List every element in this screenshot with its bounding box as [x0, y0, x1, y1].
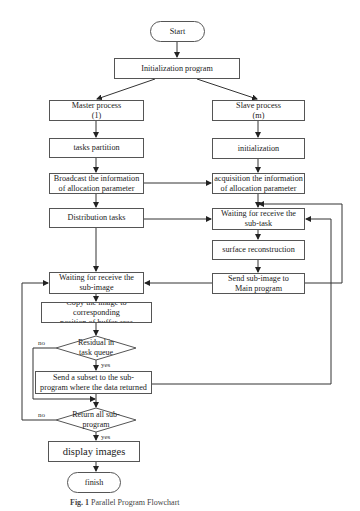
- slave-process-box: Slave process (m): [212, 100, 305, 121]
- caption-text: Parallel Program Flowchart: [91, 498, 179, 507]
- acquisition-box: acquisition the information of allocatio…: [212, 173, 305, 194]
- wait-subtask-box: Waiting for receive the sub-task: [212, 208, 305, 230]
- start-terminal: Start: [150, 21, 205, 42]
- slave-initialization-box: initialization: [212, 138, 305, 159]
- surface-reconstruction-box: surface reconstruction: [212, 240, 305, 260]
- send-subimage-box: Send sub-image to Main program: [212, 273, 305, 294]
- return-all-no-label: no: [38, 411, 45, 419]
- init-program-box: Initialization program: [114, 58, 240, 79]
- return-all-yes-label: yes: [101, 433, 110, 441]
- display-images-box: display images: [48, 441, 140, 462]
- wait-subimage-box: Waiting for receive the sub-image: [49, 272, 144, 294]
- flowchart: Start Initialization program Master proc…: [0, 0, 360, 511]
- finish-terminal: finish: [67, 472, 121, 493]
- distribution-tasks-box: Distribution tasks: [49, 208, 144, 228]
- residual-yes-label: yes: [101, 361, 110, 369]
- residual-decision-text: Residual in task queue: [56, 338, 136, 358]
- figure-caption: Fig. 1 Parallel Program Flowchart: [70, 498, 180, 507]
- residual-no-label: no: [38, 339, 45, 347]
- return-all-decision-text: Return all sub- program: [56, 410, 136, 430]
- send-subset-box: Send a subset to the sub- program where …: [35, 371, 152, 394]
- copy-image-box: Copy the image to corresponding position…: [41, 302, 152, 323]
- caption-fig-number: Fig. 1: [70, 498, 89, 507]
- tasks-partition-box: tasks partition: [49, 138, 144, 158]
- broadcast-box: Broadcast the information of allocation …: [49, 173, 144, 194]
- master-process-box: Master process (1): [49, 100, 144, 121]
